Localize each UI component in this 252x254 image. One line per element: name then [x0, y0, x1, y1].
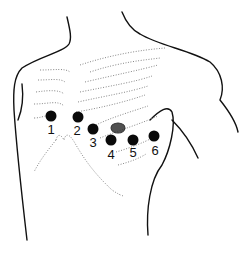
torso-outline: [0, 0, 252, 254]
heart-marker-icon: [111, 123, 126, 134]
electrode-3: [88, 124, 99, 135]
electrode-1: [46, 111, 57, 122]
electrode-label-6: 6: [151, 144, 158, 157]
electrode-label-1: 1: [47, 123, 54, 136]
electrode-2: [73, 112, 84, 123]
electrode-5: [128, 135, 139, 146]
electrode-label-4: 4: [107, 148, 114, 161]
electrode-6: [149, 131, 160, 142]
electrode-label-2: 2: [73, 124, 80, 137]
electrode-4: [106, 135, 117, 146]
chest-electrode-diagram: 1 2 3 4 5 6: [0, 0, 252, 254]
electrode-label-3: 3: [89, 136, 96, 149]
electrode-label-5: 5: [129, 146, 136, 159]
